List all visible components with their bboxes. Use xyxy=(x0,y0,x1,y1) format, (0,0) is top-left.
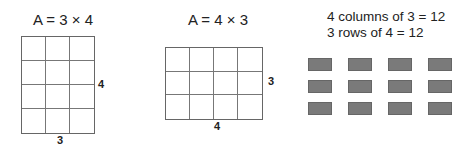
grid-cell xyxy=(238,48,262,72)
grid-cell xyxy=(46,37,70,61)
grid-cell xyxy=(70,85,94,109)
array-block xyxy=(428,80,452,93)
grid-cell xyxy=(214,48,238,72)
grid-cell xyxy=(22,85,46,109)
grid-cell xyxy=(166,72,190,96)
grid-cell xyxy=(70,109,94,133)
array-block xyxy=(308,80,332,93)
panel1-width-label: 3 xyxy=(57,134,63,146)
grid-cell xyxy=(22,37,46,61)
grid-cell xyxy=(46,109,70,133)
grid-cell xyxy=(214,95,238,119)
array-block xyxy=(428,102,452,115)
array-block xyxy=(308,102,332,115)
panel1-height-label: 4 xyxy=(98,78,104,90)
grid-cell xyxy=(190,48,214,72)
statement-rows: 3 rows of 4 = 12 xyxy=(327,24,423,41)
grid-cell xyxy=(238,95,262,119)
panel2-height-label: 3 xyxy=(268,75,274,87)
grid-cell xyxy=(46,85,70,109)
grid-cell xyxy=(70,61,94,85)
array-block xyxy=(348,58,372,71)
grid-4x3 xyxy=(165,47,263,120)
panel1-title: A = 3 × 4 xyxy=(33,11,93,28)
statement-columns: 4 columns of 3 = 12 xyxy=(327,8,445,25)
grid-cell xyxy=(22,61,46,85)
array-block xyxy=(388,102,412,115)
grid-cell xyxy=(46,61,70,85)
grid-cell xyxy=(22,109,46,133)
array-block xyxy=(428,58,452,71)
grid-cell xyxy=(214,72,238,96)
grid-cell xyxy=(190,72,214,96)
panel2-width-label: 4 xyxy=(214,120,220,132)
panel2-title: A = 4 × 3 xyxy=(188,11,248,28)
grid-3x4 xyxy=(21,36,95,134)
array-block xyxy=(308,58,332,71)
grid-cell xyxy=(166,95,190,119)
grid-cell xyxy=(166,48,190,72)
grid-cell xyxy=(238,72,262,96)
array-block xyxy=(348,80,372,93)
array-block xyxy=(388,80,412,93)
grid-cell xyxy=(70,37,94,61)
array-block xyxy=(388,58,412,71)
grid-cell xyxy=(190,95,214,119)
array-block xyxy=(348,102,372,115)
